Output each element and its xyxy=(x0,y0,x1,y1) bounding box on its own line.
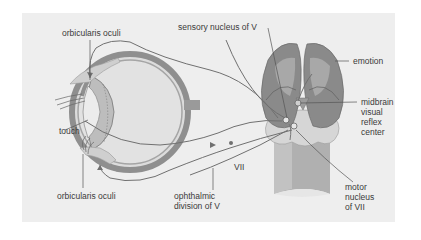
label-motor-line3: of VII xyxy=(345,202,374,212)
label-touch: touch xyxy=(59,126,80,136)
label-midbrain-visual-reflex-center: midbrain visual reflex center xyxy=(361,97,394,137)
label-ophthalmic-line2: division of V xyxy=(174,201,220,211)
label-midbrain-line2: visual xyxy=(361,107,394,117)
label-motor-line2: nucleus xyxy=(345,192,374,202)
label-motor-line1: motor xyxy=(345,182,374,192)
label-motor-nucleus-vii: motor nucleus of VII xyxy=(345,182,374,212)
label-midbrain-line3: reflex xyxy=(361,117,394,127)
label-orbicularis-oculi-bottom: orbicularis oculi xyxy=(57,191,116,201)
ganglion-dot xyxy=(229,141,233,145)
label-vii: VII xyxy=(234,162,244,172)
label-ophthalmic-line1: ophthalmic xyxy=(174,191,220,201)
label-sensory-nucleus-v: sensory nucleus of V xyxy=(178,22,257,32)
label-midbrain-line1: midbrain xyxy=(361,97,394,107)
label-ophthalmic-division-v: ophthalmic division of V xyxy=(174,191,220,211)
label-orbicularis-oculi-top: orbicularis oculi xyxy=(62,28,121,38)
label-midbrain-line4: center xyxy=(361,127,394,137)
label-emotion: emotion xyxy=(353,56,383,66)
brainstem xyxy=(274,140,330,197)
motor-nucleus-vii xyxy=(291,123,297,129)
